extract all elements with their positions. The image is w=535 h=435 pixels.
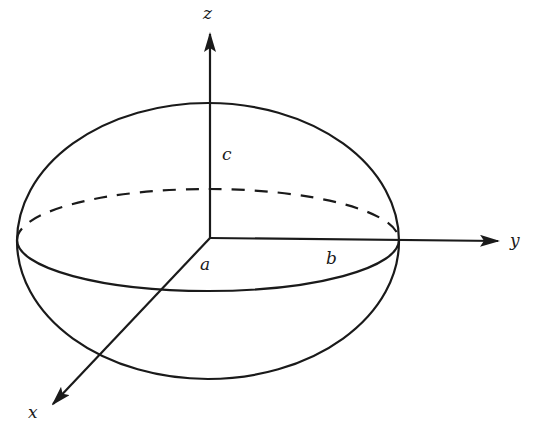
- diagram-canvas: [0, 0, 535, 435]
- y-axis: [210, 238, 498, 241]
- z-axis-label: z: [203, 5, 212, 22]
- equator-back-dashed: [17, 189, 399, 240]
- y-axis-label: y: [510, 232, 520, 249]
- semi-axis-b-label: b: [326, 250, 337, 267]
- semi-axis-c-label: c: [222, 146, 232, 163]
- ellipsoid-diagram: z y x c a b: [0, 0, 535, 435]
- semi-axis-a-label: a: [200, 256, 210, 273]
- x-axis-label: x: [28, 404, 38, 421]
